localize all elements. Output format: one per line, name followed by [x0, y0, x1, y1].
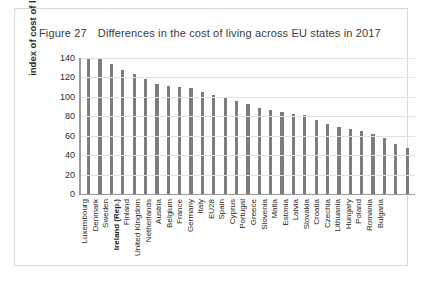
- gridline: [81, 175, 415, 176]
- x-tick-label: Croatia: [312, 199, 321, 225]
- y-tick-label: 100: [60, 92, 75, 102]
- x-label-slot: France: [174, 199, 185, 284]
- y-tick-label: 20: [65, 170, 75, 180]
- figure-title: Figure 27Differences in the cost of livi…: [39, 27, 381, 39]
- y-tick-label: 120: [60, 72, 75, 82]
- y-axis-ticks: 020406080100120140: [47, 53, 75, 199]
- bar[interactable]: [371, 134, 374, 194]
- bar[interactable]: [269, 110, 272, 194]
- x-tick-label: Luxembourg: [80, 199, 89, 243]
- x-label-slot: Slovakia: [300, 199, 311, 284]
- chart-plot-wrapper: index of cost of living 0204060801001201…: [29, 53, 423, 203]
- x-tick-label: Latvia: [291, 199, 300, 220]
- x-label-slot: Croatia: [311, 199, 322, 284]
- x-axis-labels: LuxembourgDenmarkSwedenIreland (Rep.)Fin…: [79, 199, 385, 284]
- figure-title-text: Differences in the cost of living across…: [98, 27, 381, 39]
- x-tick-label: Austria: [154, 199, 163, 224]
- x-tick-label: Czechia: [322, 199, 331, 228]
- x-label-slot: Ireland (Rep.): [111, 199, 122, 284]
- y-tick-label: 0: [70, 189, 75, 199]
- x-label-slot: Malta: [269, 199, 280, 284]
- bar[interactable]: [360, 131, 363, 194]
- x-tick-label: Lithuania: [333, 199, 342, 231]
- gridline: [81, 58, 415, 59]
- x-label-slot: Denmark: [90, 199, 101, 284]
- x-label-slot: Czechia: [322, 199, 333, 284]
- x-tick-label: Poland: [354, 199, 363, 224]
- figure-number: Figure 27: [39, 27, 87, 39]
- x-tick-label: France: [175, 199, 184, 224]
- x-label-slot: Sweden: [100, 199, 111, 284]
- x-label-slot: Netherlands: [142, 199, 153, 284]
- x-label-slot: Italy: [195, 199, 206, 284]
- y-tick-label: 40: [65, 150, 75, 160]
- bar[interactable]: [394, 144, 397, 195]
- x-tick-label: Romania: [365, 199, 374, 231]
- bar[interactable]: [349, 129, 352, 194]
- x-tick-label: Sweden: [101, 199, 110, 228]
- x-tick-label: Slovakia: [301, 199, 310, 229]
- bar[interactable]: [212, 95, 215, 194]
- x-label-slot: Finland: [121, 199, 132, 284]
- x-label-slot: Portugal: [237, 199, 248, 284]
- bar[interactable]: [201, 92, 204, 194]
- x-tick-label: Netherlands: [143, 199, 152, 242]
- bar[interactable]: [315, 120, 318, 194]
- x-label-slot: Bulgaria: [374, 199, 385, 284]
- y-tick-label: 80: [65, 111, 75, 121]
- bar[interactable]: [258, 108, 261, 194]
- x-label-slot: EU28: [206, 199, 217, 284]
- x-tick-label: Spain: [217, 199, 226, 219]
- y-tick-label: 140: [60, 53, 75, 63]
- bar[interactable]: [235, 101, 238, 194]
- bar[interactable]: [337, 127, 340, 194]
- bar[interactable]: [326, 124, 329, 194]
- bar[interactable]: [155, 84, 158, 194]
- x-label-slot: Spain: [216, 199, 227, 284]
- x-label-slot: Belgium: [163, 199, 174, 284]
- x-label-slot: Estonia: [279, 199, 290, 284]
- y-axis-label: index of cost of living: [27, 0, 38, 97]
- plot-area: [79, 58, 415, 195]
- x-tick-label: Hungary: [343, 199, 352, 229]
- gridline: [81, 116, 415, 117]
- gridline: [81, 155, 415, 156]
- gridline: [81, 77, 415, 78]
- bar[interactable]: [224, 97, 227, 194]
- x-label-slot: Slovenia: [258, 199, 269, 284]
- x-tick-label: Bulgaria: [375, 199, 384, 228]
- x-tick-label: Denmark: [90, 199, 99, 231]
- x-tick-label: Cyprus: [227, 199, 236, 224]
- x-tick-label: United Kingdom: [133, 199, 142, 256]
- gridline: [81, 136, 415, 137]
- bar[interactable]: [167, 86, 170, 194]
- x-label-slot: Greece: [248, 199, 259, 284]
- bar[interactable]: [280, 112, 283, 194]
- x-tick-label: Slovenia: [259, 199, 268, 230]
- x-label-slot: Poland: [353, 199, 364, 284]
- y-tick-label: 60: [65, 131, 75, 141]
- x-tick-label: Belgium: [164, 199, 173, 228]
- x-label-slot: Hungary: [343, 199, 354, 284]
- x-label-slot: Luxembourg: [79, 199, 90, 284]
- x-label-slot: Germany: [184, 199, 195, 284]
- x-label-slot: United Kingdom: [132, 199, 143, 284]
- bar[interactable]: [133, 74, 136, 194]
- x-tick-label: EU28: [206, 199, 215, 219]
- x-label-slot: Cyprus: [227, 199, 238, 284]
- x-tick-label: Estonia: [280, 199, 289, 226]
- x-tick-label: Germany: [185, 199, 194, 232]
- bar[interactable]: [178, 87, 181, 194]
- x-tick-label: Italy: [196, 199, 205, 214]
- gridline: [81, 97, 415, 98]
- x-label-slot: Romania: [364, 199, 375, 284]
- x-label-slot: Austria: [153, 199, 164, 284]
- x-tick-label: Portugal: [238, 199, 247, 229]
- x-tick-label: Finland: [122, 199, 131, 225]
- x-tick-label: Greece: [249, 199, 258, 225]
- x-tick-label: Ireland (Rep.): [111, 199, 120, 250]
- x-label-slot: Lithuania: [332, 199, 343, 284]
- x-label-slot: Latvia: [290, 199, 301, 284]
- bar[interactable]: [189, 88, 192, 194]
- bar[interactable]: [383, 138, 386, 194]
